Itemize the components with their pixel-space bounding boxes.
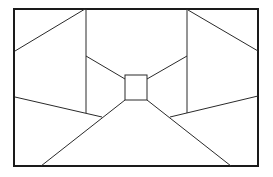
left-lower-diagonal (15, 97, 102, 117)
left-inner-ceiling (86, 56, 125, 79)
vanishing-square (125, 75, 147, 100)
right-floor-line (147, 100, 231, 166)
corridor-perspective-diagram (0, 0, 273, 177)
right-inner-ceiling (147, 56, 187, 79)
perspective-lines (15, 9, 258, 166)
right-upper-diagonal (188, 10, 258, 51)
outer-frame (14, 9, 258, 166)
left-floor-line (41, 100, 125, 166)
right-lower-diagonal (170, 96, 258, 117)
left-upper-diagonal (15, 9, 85, 51)
